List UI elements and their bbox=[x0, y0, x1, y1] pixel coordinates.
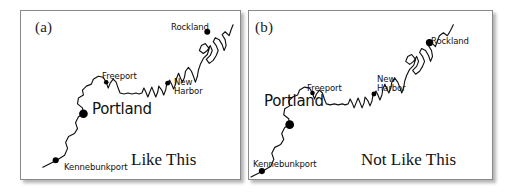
label-freeport: Freeport bbox=[102, 72, 137, 81]
panel-b-bad-example: (b) Rockland Freeport New Harbor Portlan… bbox=[248, 10, 493, 180]
panel-b-caption: Not Like This bbox=[361, 150, 456, 170]
panel-a-good-example: (a) Rockland Freeport New Harbor Portlan… bbox=[20, 10, 241, 180]
panel-a-caption: Like This bbox=[131, 150, 196, 170]
city-dot-kennebunkport bbox=[53, 157, 59, 163]
label-new-harbor-line2: Harbor bbox=[174, 87, 203, 96]
city-dot-portland bbox=[79, 109, 88, 118]
label-rockland: Rockland bbox=[171, 23, 209, 32]
city-dot-new-harbor bbox=[165, 81, 170, 86]
label-rockland: Rockland bbox=[431, 37, 469, 46]
coastline-path bbox=[43, 25, 233, 167]
label-kennebunkport: Kennebunkport bbox=[253, 160, 317, 169]
label-portland: Portland bbox=[264, 97, 324, 106]
figure-container: (a) Rockland Freeport New Harbor Portlan… bbox=[0, 0, 512, 193]
city-dot-new-harbor bbox=[371, 92, 376, 97]
label-new-harbor-line2: Harbor bbox=[377, 84, 406, 93]
label-portland: Portland bbox=[92, 105, 152, 114]
city-dot-portland bbox=[285, 120, 294, 129]
label-kennebunkport: Kennebunkport bbox=[64, 163, 128, 172]
